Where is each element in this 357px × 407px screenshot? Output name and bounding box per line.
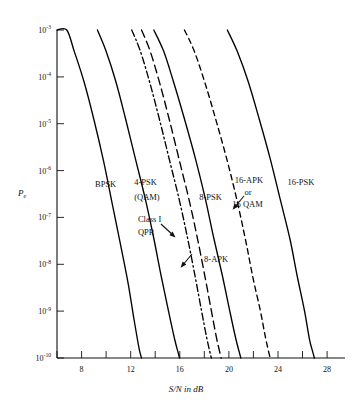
y-tick-label-8: 10-10	[36, 352, 52, 363]
x-tick-label-12: 12	[127, 365, 135, 374]
curve-group	[57, 28, 314, 358]
y-axis-title: Pe	[17, 188, 27, 199]
curve-label-qpr: QPR	[138, 227, 155, 237]
chart-figure: 10-3 10-4 10-5 10-6 10-7 10-8 10-9 10-10	[0, 0, 357, 407]
x-tick-label-28: 28	[323, 365, 331, 374]
x-tick-label-20: 20	[225, 365, 233, 374]
y-tick-label-1: 10-3	[38, 24, 51, 35]
y-tick-label-3: 10-5	[38, 118, 51, 129]
curve-8-psk	[154, 30, 241, 358]
arrow-8-apk	[181, 254, 192, 268]
curve-label-or: or	[245, 187, 252, 197]
y-tick-label-7: 10-9	[38, 306, 51, 317]
curve-16-psk	[227, 30, 314, 358]
curve-label-16-psk: 16-PSK	[287, 177, 315, 187]
curve-label-4-psk: 4-PSK	[134, 177, 158, 187]
curve-label-qam: (QAM)	[134, 192, 160, 202]
curve-label-16-apk: 16-APK	[235, 175, 264, 185]
curve-label-class-i: Class I	[138, 214, 162, 224]
x-axis-ticks	[57, 351, 327, 358]
curve-label-8-apk: 8-APK	[204, 254, 229, 264]
y-tick-label-4: 10-6	[38, 165, 51, 176]
x-axis-title: S/N in dB	[169, 384, 204, 394]
arrow-class-i-qpr	[161, 224, 176, 238]
curve-label-bpsk: BPSK	[95, 179, 117, 189]
x-axis-tick-labels: 8 12 16 20 24 28	[80, 365, 332, 374]
y-tick-label-6: 10-8	[38, 259, 51, 270]
chart-svg: 10-3 10-4 10-5 10-6 10-7 10-8 10-9 10-10	[0, 0, 357, 407]
y-axis-ticks	[57, 30, 64, 358]
x-tick-label-8: 8	[80, 365, 84, 374]
curve-label-8-psk: 8-PSK	[199, 192, 223, 202]
y-axis-tick-labels: 10-3 10-4 10-5 10-6 10-7 10-8 10-9 10-10	[36, 24, 52, 363]
x-tick-label-16: 16	[176, 365, 184, 374]
curve-bpsk	[57, 28, 142, 358]
curve-16-apk-or-16-qam	[184, 30, 270, 358]
x-tick-label-24: 24	[274, 365, 282, 374]
y-tick-label-2: 10-4	[38, 71, 51, 82]
y-tick-label-5: 10-7	[38, 212, 51, 223]
curve-annotations: BPSK4-PSK(QAM)Class IQPR8-APK8-PSK16-APK…	[95, 175, 315, 264]
